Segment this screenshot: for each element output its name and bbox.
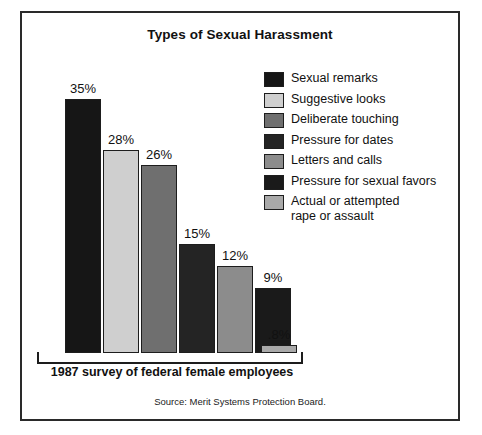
legend-label: Pressure for dates [291,133,393,148]
legend-item: Deliberate touching [264,112,454,128]
legend-label: Sexual remarks [291,71,378,86]
bar [217,266,253,353]
bar-value-label: 26% [135,147,183,162]
bar-value-label: 12% [211,248,259,263]
bar-value-label: 9% [249,270,297,285]
legend-item: Pressure for sexual favors [264,174,454,190]
bar [103,150,139,353]
legend-swatch-icon [264,154,284,169]
axis-bracket [37,352,303,364]
legend-swatch-icon [264,113,284,128]
bar-value-label: 15% [173,226,221,241]
bar [141,165,177,354]
bar-value-label: 35% [59,81,107,96]
axis-caption: 1987 survey of federal female employees [37,365,307,379]
legend-swatch-icon [264,93,284,108]
chart-legend: Sexual remarksSuggestive looksDeliberate… [264,71,454,228]
chart-frame: Types of Sexual Harassment 35%28%26%15%1… [20,11,460,421]
legend-item: Suggestive looks [264,92,454,108]
legend-swatch-icon [264,72,284,87]
legend-swatch-icon [264,195,284,210]
legend-label: Letters and calls [291,153,382,168]
bar [179,244,215,353]
legend-label: Deliberate touching [291,112,399,127]
bar-value-label: 28% [97,132,145,147]
legend-item: Actual or attempted rape or assault [264,194,454,223]
bar-value-label: .8% [255,327,303,342]
legend-item: Sexual remarks [264,71,454,87]
legend-label: Pressure for sexual favors [291,174,436,189]
bar [255,288,291,353]
legend-item: Pressure for dates [264,133,454,149]
legend-label: Suggestive looks [291,92,386,107]
source-note: Source: Merit Systems Protection Board. [22,396,458,407]
legend-item: Letters and calls [264,153,454,169]
legend-swatch-icon [264,175,284,190]
legend-label: Actual or attempted rape or assault [291,194,399,223]
bar [65,99,101,353]
legend-swatch-icon [264,134,284,149]
